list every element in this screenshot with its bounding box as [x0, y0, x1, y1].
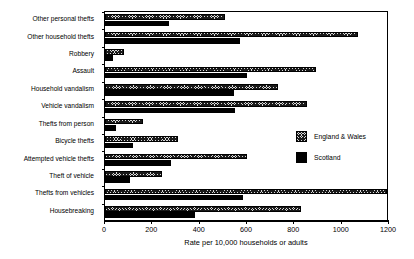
- bar-scotland: [105, 108, 235, 114]
- bar-scotland: [105, 160, 171, 166]
- y-axis-labels: Other personal theftsOther household the…: [0, 11, 100, 220]
- y-axis-tick: [102, 99, 105, 100]
- legend-label-england-wales: England & Wales: [314, 133, 366, 140]
- y-axis-label: Assault: [0, 67, 94, 75]
- bar-england-wales: [105, 49, 124, 55]
- bar-england-wales: [105, 154, 247, 160]
- y-axis-tick: [102, 82, 105, 83]
- legend-swatch-england-wales: [296, 131, 307, 142]
- bar-scotland: [105, 212, 195, 218]
- y-axis-tick: [102, 47, 105, 48]
- bar-group: [105, 29, 387, 46]
- y-axis-tick: [102, 117, 105, 118]
- legend-item-england-wales: England & Wales: [296, 131, 392, 142]
- bar-scotland: [105, 177, 130, 183]
- x-axis-tick: [104, 220, 105, 224]
- x-axis-tick-label: 600: [226, 225, 266, 234]
- x-axis-tick: [246, 220, 247, 224]
- x-axis-tick-label: 0: [84, 225, 124, 234]
- plot-area: [104, 11, 388, 220]
- y-axis-label: Thefts from vehicles: [0, 189, 94, 197]
- x-axis-tick: [199, 220, 200, 224]
- y-axis-tick: [102, 186, 105, 187]
- bar-england-wales: [105, 14, 225, 20]
- x-axis-title: Rate per 10,000 households or adults: [104, 238, 388, 247]
- bar-chart: Other personal theftsOther household the…: [0, 0, 414, 259]
- x-axis-tick: [388, 220, 389, 224]
- bar-scotland: [105, 195, 243, 201]
- bar-scotland: [105, 73, 247, 79]
- bar-scotland: [105, 90, 234, 96]
- y-axis-tick: [102, 169, 105, 170]
- bar-scotland: [105, 55, 113, 61]
- bar-group: [105, 12, 387, 29]
- y-axis-tick: [102, 29, 105, 30]
- bar-england-wales: [105, 136, 178, 142]
- bar-england-wales: [105, 101, 307, 107]
- legend-swatch-scotland: [296, 152, 307, 163]
- x-axis-tick: [293, 220, 294, 224]
- bar-group: [105, 186, 387, 203]
- bar-group: [105, 99, 387, 116]
- y-axis-tick: [102, 64, 105, 65]
- bar-group: [105, 64, 387, 81]
- bar-group: [105, 204, 387, 221]
- y-axis-tick: [102, 151, 105, 152]
- bar-england-wales: [105, 189, 387, 195]
- x-axis-tick: [151, 220, 152, 224]
- x-axis-tick-label: 400: [179, 225, 219, 234]
- bar-scotland: [105, 38, 240, 44]
- legend-label-scotland: Scotland: [314, 154, 340, 161]
- bar-scotland: [105, 21, 169, 27]
- x-axis-tick: [341, 220, 342, 224]
- bar-england-wales: [105, 84, 278, 90]
- y-axis-label: Attempted vehicle thefts: [0, 155, 94, 163]
- bar-england-wales: [105, 206, 301, 212]
- bar-england-wales: [105, 67, 316, 73]
- y-axis-label: Housebreaking: [0, 207, 94, 215]
- y-axis-label: Thefts from person: [0, 120, 94, 128]
- y-axis-tick: [102, 12, 105, 13]
- legend: England & Wales Scotland: [296, 131, 392, 173]
- x-axis-tick-label: 200: [131, 225, 171, 234]
- y-axis-label: Robbery: [0, 50, 94, 58]
- bar-group: [105, 82, 387, 99]
- bar-england-wales: [105, 32, 358, 38]
- y-axis-label: Other household thefts: [0, 33, 94, 41]
- y-axis-label: Theft of vehicle: [0, 172, 94, 180]
- bar-group: [105, 47, 387, 64]
- x-axis-tick-label: 1000: [321, 225, 361, 234]
- x-axis-tick-label: 800: [273, 225, 313, 234]
- legend-item-scotland: Scotland: [296, 152, 392, 163]
- y-axis-label: Household vandalism: [0, 85, 94, 93]
- bar-scotland: [105, 125, 116, 131]
- y-axis-label: Other personal thefts: [0, 15, 94, 23]
- y-axis-tick: [102, 204, 105, 205]
- bar-scotland: [105, 143, 133, 149]
- y-axis-label: Vehicle vandalism: [0, 102, 94, 110]
- bar-england-wales: [105, 119, 143, 125]
- x-axis-tick-label: 1200: [368, 225, 408, 234]
- y-axis-tick: [102, 134, 105, 135]
- bar-england-wales: [105, 171, 162, 177]
- y-axis-label: Bicycle thefts: [0, 137, 94, 145]
